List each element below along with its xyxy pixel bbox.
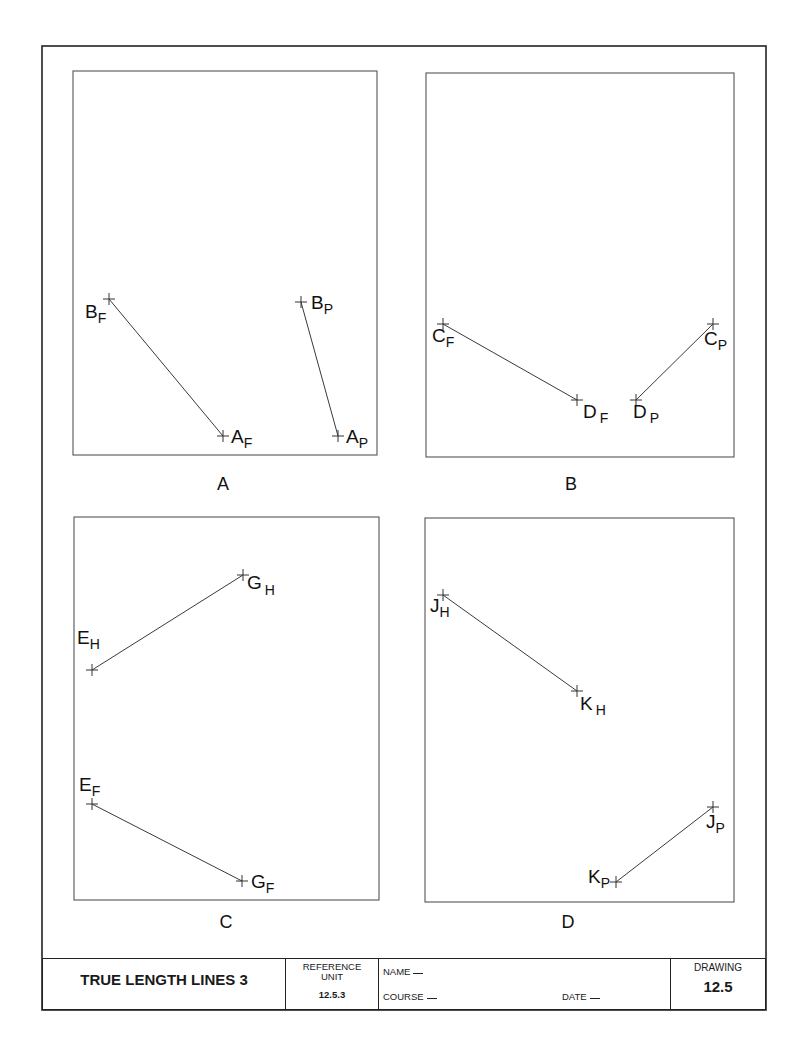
title-block: TRUE LENGTH LINES 3 REFERENCE UNIT 12.5.…	[42, 958, 766, 1010]
line-jp-kp	[616, 807, 713, 882]
line-cf-df	[443, 324, 577, 400]
point-label: JH	[430, 595, 450, 620]
panel-caption: A	[217, 474, 229, 494]
point-label: GF	[251, 871, 274, 896]
drawing-number: 12.5	[671, 978, 765, 995]
point-label: BP	[311, 292, 333, 317]
point-marker	[610, 876, 622, 888]
reference-unit-value: 12.5.3	[286, 990, 378, 1000]
point-label: JP	[706, 811, 725, 836]
line-cp-dp	[636, 324, 713, 400]
sheet-border	[42, 46, 766, 1010]
point-marker	[103, 293, 115, 305]
point-label: AF	[231, 426, 252, 451]
point-marker	[236, 875, 248, 887]
point-label: BF	[85, 301, 106, 326]
name-blank[interactable]	[413, 973, 423, 974]
name-field[interactable]: NAME	[383, 966, 423, 977]
point-label: CP	[704, 328, 727, 353]
panel-caption: C	[220, 912, 233, 932]
line-eh-gh	[92, 575, 243, 670]
line-jh-kh	[443, 595, 577, 691]
drawing-label: DRAWING	[671, 962, 765, 973]
point-label: KP	[588, 866, 610, 891]
panel-caption: D	[562, 912, 575, 932]
date-blank[interactable]	[590, 998, 600, 999]
date-label: DATE	[562, 991, 587, 1002]
panel-a: BF AF BP AP A	[73, 71, 377, 494]
drawing-number-cell: DRAWING 12.5	[671, 959, 765, 1009]
point-marker	[571, 394, 583, 406]
reference-unit-label-line2: UNIT	[286, 972, 378, 982]
point-label: EH	[77, 627, 100, 652]
panel-a-frame	[73, 71, 377, 455]
reference-unit-cell: REFERENCE UNIT 12.5.3	[286, 959, 379, 1009]
name-label: NAME	[383, 966, 410, 977]
course-blank[interactable]	[427, 998, 437, 999]
date-field[interactable]: DATE	[562, 991, 600, 1002]
point-label: GH	[247, 572, 275, 598]
course-label: COURSE	[383, 991, 424, 1002]
line-bp-ap	[301, 302, 338, 436]
student-info-cell: NAME COURSE DATE	[379, 959, 671, 1009]
point-marker	[86, 664, 98, 676]
point-label: DP	[633, 401, 659, 426]
panel-caption: B	[565, 474, 577, 494]
panel-c: EH GH EF GF C	[74, 517, 379, 932]
point-label: EF	[79, 774, 100, 799]
point-marker	[332, 430, 344, 442]
panel-b: CF DF CP DP B	[426, 73, 734, 494]
drawing-sheet: BF AF BP AP A CF DF CP DP B EH GH EF GF …	[0, 0, 788, 1062]
point-marker	[295, 296, 307, 308]
point-label: KH	[580, 693, 606, 718]
point-marker	[86, 798, 98, 810]
panel-d: JH KH JP KP D	[425, 518, 734, 932]
point-label: DF	[583, 401, 608, 426]
point-marker	[217, 430, 229, 442]
point-label: AP	[346, 426, 368, 451]
panel-c-frame	[74, 517, 379, 900]
course-field[interactable]: COURSE	[383, 991, 437, 1002]
panel-b-frame	[426, 73, 734, 457]
drawing-title: TRUE LENGTH LINES 3	[43, 959, 286, 1009]
line-bf-af	[109, 299, 223, 436]
line-ef-gf	[92, 804, 242, 881]
